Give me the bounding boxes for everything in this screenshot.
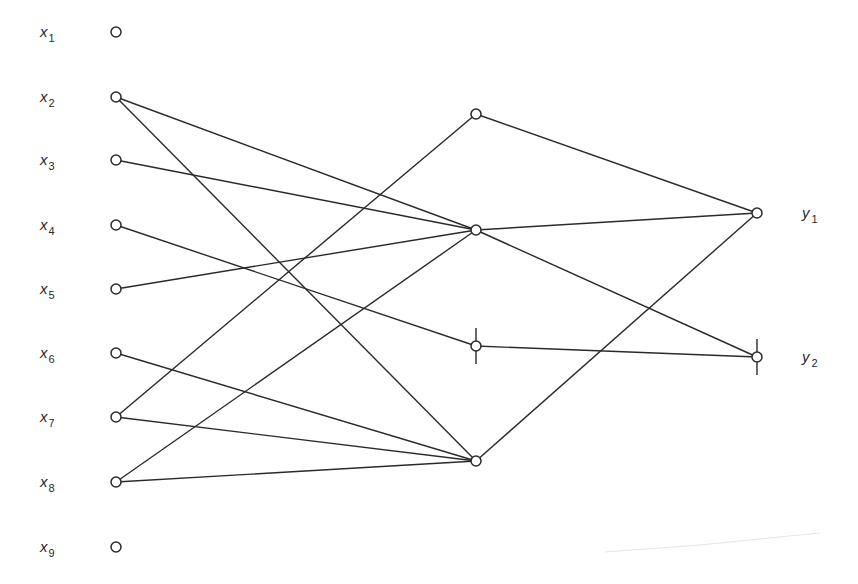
nodes-group — [111, 27, 762, 552]
node-y2 — [752, 352, 762, 362]
scan-artifact — [605, 533, 820, 552]
node-h3 — [471, 341, 481, 351]
edge-x4-h3 — [116, 225, 476, 346]
node-h2 — [471, 225, 481, 235]
label-x6: x6 — [39, 344, 55, 365]
label-x1: x1 — [39, 23, 55, 44]
label-x9: x9 — [39, 538, 55, 559]
label-y2: y2 — [801, 348, 818, 369]
output-labels: y1 y2 — [801, 204, 818, 369]
node-x2 — [111, 92, 121, 102]
edge-h2-y1 — [476, 213, 757, 230]
node-x9 — [111, 542, 121, 552]
node-h4 — [471, 456, 481, 466]
edges-group — [116, 97, 757, 482]
input-labels: x1 x2 x3 x4 x5 x6 x7 x8 x9 — [39, 23, 55, 559]
edge-x7-h1 — [116, 114, 476, 417]
edge-x7-h4 — [116, 417, 476, 461]
node-x6 — [111, 348, 121, 358]
edge-x5-h2 — [116, 230, 476, 289]
node-x8 — [111, 477, 121, 487]
edge-x8-h4 — [116, 461, 476, 482]
edge-h4-y1 — [476, 213, 757, 461]
edge-x3-h2 — [116, 160, 476, 230]
label-x4: x4 — [39, 216, 55, 237]
label-x7: x7 — [39, 408, 55, 429]
label-y1: y1 — [801, 204, 818, 225]
node-h1 — [471, 109, 481, 119]
label-x2: x2 — [39, 88, 55, 109]
label-x8: x8 — [39, 473, 55, 494]
edge-x2-h2 — [116, 97, 476, 230]
network-diagram: x1 x2 x3 x4 x5 x6 x7 x8 x9 y1 y2 — [0, 0, 858, 584]
node-y1 — [752, 208, 762, 218]
node-x3 — [111, 155, 121, 165]
node-x1 — [111, 27, 121, 37]
label-x3: x3 — [39, 151, 55, 172]
node-x4 — [111, 220, 121, 230]
node-x7 — [111, 412, 121, 422]
node-x5 — [111, 284, 121, 294]
edge-h2-y2 — [476, 230, 757, 357]
edge-h3-y2 — [476, 346, 757, 357]
edge-h1-y1 — [476, 114, 757, 213]
label-x5: x5 — [39, 280, 55, 301]
